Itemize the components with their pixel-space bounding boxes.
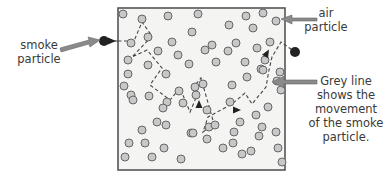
air-particle bbox=[228, 81, 236, 89]
air-particle bbox=[259, 66, 267, 74]
air-particle bbox=[144, 61, 152, 69]
air-particle bbox=[211, 121, 219, 129]
air-particle bbox=[179, 99, 187, 107]
air-particle bbox=[232, 39, 240, 47]
air-particle bbox=[175, 87, 183, 95]
air-particle bbox=[185, 60, 193, 68]
smoke-label-line-2: particle bbox=[10, 52, 68, 66]
air-particle bbox=[124, 56, 132, 64]
air-particle bbox=[243, 73, 251, 81]
air-particle-label: air particle bbox=[302, 6, 350, 34]
air-particle bbox=[141, 139, 149, 147]
air-particle bbox=[224, 47, 232, 55]
air-particle bbox=[203, 135, 211, 143]
caption-line-5: particle. bbox=[304, 130, 388, 144]
air-particle bbox=[238, 150, 246, 158]
air-particle bbox=[194, 10, 202, 18]
air-particle bbox=[159, 104, 167, 112]
air-particle bbox=[177, 155, 185, 163]
air-particle bbox=[188, 28, 196, 36]
air-particle bbox=[160, 144, 168, 152]
air-particle bbox=[266, 38, 274, 46]
air-particle bbox=[119, 10, 127, 18]
air-particle bbox=[226, 98, 234, 106]
smoke-particle-end bbox=[290, 47, 300, 57]
air-particle bbox=[258, 123, 266, 131]
air-particle bbox=[148, 153, 156, 161]
air-particle bbox=[242, 12, 250, 20]
air-particle bbox=[121, 153, 129, 161]
air-particle bbox=[125, 139, 133, 147]
air-particle bbox=[127, 39, 135, 47]
caption-line-4: of the smoke bbox=[304, 116, 388, 130]
air-particle bbox=[174, 51, 182, 59]
caption-line-2: shows the bbox=[304, 88, 388, 102]
air-particle bbox=[208, 41, 216, 49]
air-particle bbox=[145, 92, 153, 100]
caption-line-1: Grey line bbox=[304, 74, 388, 88]
air-particle bbox=[225, 21, 233, 29]
air-particle bbox=[272, 17, 280, 25]
air-particle bbox=[255, 132, 263, 140]
air-particle bbox=[129, 96, 137, 104]
air-particle bbox=[138, 126, 146, 134]
air-particle bbox=[230, 128, 238, 136]
air-particle bbox=[162, 70, 170, 78]
air-particle bbox=[124, 70, 132, 78]
air-particle bbox=[154, 47, 162, 55]
air-particle bbox=[162, 121, 170, 129]
caption-line-3: movement bbox=[304, 102, 388, 116]
smoke-label-line-1: smoke bbox=[10, 38, 68, 52]
direction-arrowhead-icon bbox=[108, 38, 116, 45]
air-particle bbox=[264, 103, 272, 111]
smoke-particle-start bbox=[99, 36, 109, 46]
air-particle bbox=[272, 128, 280, 136]
smoke-particle-label: smoke particle bbox=[10, 38, 68, 66]
air-particle bbox=[191, 83, 199, 91]
air-particle bbox=[153, 118, 161, 126]
air-particle bbox=[192, 91, 200, 99]
air-particle bbox=[138, 15, 146, 23]
air-particle bbox=[189, 129, 197, 137]
air-particle bbox=[274, 144, 282, 152]
air-particle bbox=[253, 44, 261, 52]
air-particle bbox=[120, 82, 128, 90]
air-particle bbox=[259, 9, 267, 17]
air-particle bbox=[247, 147, 255, 155]
air-particle bbox=[212, 58, 220, 66]
air-particle bbox=[199, 80, 207, 88]
air-particle bbox=[203, 106, 211, 114]
air-particle bbox=[278, 158, 286, 166]
air-particle bbox=[168, 38, 176, 46]
air-particle bbox=[236, 118, 244, 126]
air-particle bbox=[249, 24, 257, 32]
air-particle bbox=[201, 46, 209, 54]
air-particle bbox=[229, 139, 237, 147]
grey-line-caption: Grey line shows the movement of the smok… bbox=[304, 74, 388, 144]
air-label-line-2: particle bbox=[302, 20, 350, 34]
air-particle bbox=[276, 68, 284, 76]
air-particle bbox=[164, 12, 172, 20]
air-particle bbox=[252, 111, 260, 119]
air-label-line-1: air bbox=[302, 6, 350, 20]
air-particle bbox=[219, 144, 227, 152]
air-particle bbox=[144, 33, 152, 41]
air-particle bbox=[241, 58, 249, 66]
